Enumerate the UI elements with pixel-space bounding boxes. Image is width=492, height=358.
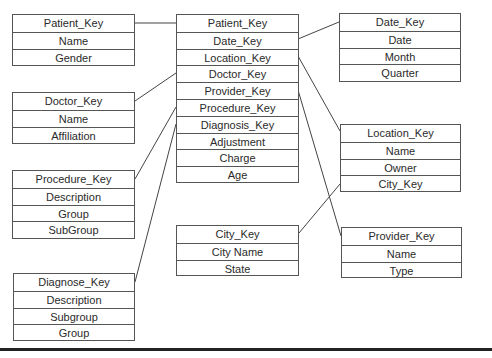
connector-diagnosis — [135, 124, 176, 282]
connector-location — [298, 56, 340, 131]
horizontal-divider-rule — [0, 348, 492, 351]
connector-procedure — [135, 107, 176, 179]
field-date: Date — [340, 31, 460, 48]
field-date-key: Date_Key — [177, 32, 298, 49]
entity-diagnose: Diagnose_Key Description Subgroup Group — [13, 273, 135, 341]
entity-procedure: Procedure_Key Description Group SubGroup — [12, 170, 135, 239]
field-charge: Charge — [177, 149, 298, 166]
field-doctor-key: Doctor_Key — [13, 93, 134, 110]
field-affiliation: Affiliation — [13, 127, 134, 144]
field-month: Month — [340, 48, 460, 65]
entity-date: Date_Key Date Month Quarter — [339, 13, 461, 82]
field-adjustment: Adjustment — [177, 133, 298, 150]
connector-date — [298, 22, 339, 39]
field-city-key: City_Key — [177, 226, 298, 243]
field-city-name: City Name — [177, 243, 298, 260]
field-age: Age — [177, 166, 298, 183]
field-quarter: Quarter — [340, 64, 460, 81]
field-patient-key: Patient_Key — [177, 15, 298, 32]
field-provider-key: Provider_Key — [342, 228, 461, 245]
field-name: Name — [342, 245, 461, 262]
field-procedure-key: Procedure_Key — [13, 171, 134, 188]
field-description: Description — [13, 188, 134, 205]
field-description: Description — [14, 291, 134, 308]
entity-city: City_Key City Name State — [176, 225, 299, 276]
field-name: Name — [13, 32, 134, 49]
connector-provider — [298, 90, 341, 236]
field-name: Name — [13, 110, 134, 127]
field-subgroup: Subgroup — [14, 308, 134, 325]
field-type: Type — [342, 262, 461, 279]
field-diagnose-key: Diagnose_Key — [14, 274, 134, 291]
connector-city — [299, 184, 340, 233]
connector-doctor — [135, 73, 176, 101]
entity-patient: Patient_Key Name Gender — [12, 14, 135, 66]
field-subgroup: SubGroup — [13, 221, 134, 238]
field-date-key: Date_Key — [340, 14, 460, 31]
field-procedure-key: Procedure_Key — [177, 99, 298, 116]
field-location-key: Location_Key — [177, 49, 298, 66]
field-city-key: City_Key — [341, 175, 460, 192]
field-diagnosis-key: Diagnosis_Key — [177, 116, 298, 133]
field-gender: Gender — [13, 49, 134, 66]
field-group: Group — [13, 205, 134, 222]
entity-doctor: Doctor_Key Name Affiliation — [12, 92, 135, 144]
entity-location: Location_Key Name Owner City_Key — [340, 124, 461, 192]
field-state: State — [177, 260, 298, 277]
field-provider-key: Provider_Key — [177, 82, 298, 99]
entity-fact-table: Patient_Key Date_Key Location_Key Doctor… — [176, 14, 299, 183]
entity-provider: Provider_Key Name Type — [341, 227, 462, 278]
field-owner: Owner — [341, 159, 460, 176]
field-group: Group — [14, 324, 134, 341]
field-doctor-key: Doctor_Key — [177, 65, 298, 82]
field-name: Name — [341, 142, 460, 159]
field-patient-key: Patient_Key — [13, 15, 134, 32]
field-location-key: Location_Key — [341, 125, 460, 142]
